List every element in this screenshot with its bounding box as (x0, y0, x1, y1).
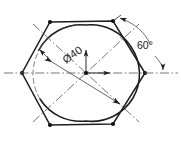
vertex-dot (48, 123, 52, 127)
vertex-dot (48, 20, 52, 24)
drawing-svg: Ø40 60° (0, 0, 181, 146)
vertex-dot (111, 122, 115, 126)
technical-drawing-canvas: Ø40 60° (0, 0, 181, 146)
center-point-marker (84, 71, 88, 75)
angle-dimension-label: 60° (137, 39, 153, 51)
